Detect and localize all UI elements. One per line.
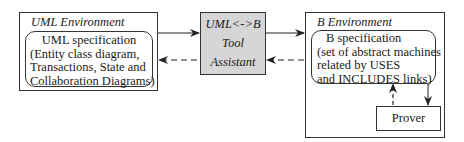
connector-arrows [0, 0, 464, 142]
